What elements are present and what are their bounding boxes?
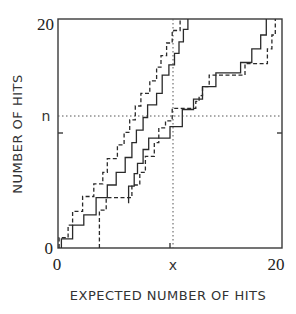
series-layer (59, 19, 275, 248)
series-left-dashed (59, 19, 180, 248)
chart-canvas: 20 n 0 0 x 20 EXPECTED NUMBER OF HITS NU… (0, 0, 296, 314)
y-axis-title: NUMBER OF HITS (10, 74, 25, 193)
x-tick-label-x: x (169, 257, 177, 273)
series-right-dashed (99, 19, 275, 248)
x-axis-title: EXPECTED NUMBER OF HITS (70, 288, 266, 303)
x-tick-label-20: 20 (268, 255, 285, 274)
y-tick-label-0: 0 (45, 239, 54, 258)
y-tick-label-n: n (42, 108, 51, 124)
y-tick-label-20: 20 (37, 15, 54, 34)
x-tick-label-0: 0 (53, 255, 62, 274)
series-right-solid (129, 19, 267, 203)
